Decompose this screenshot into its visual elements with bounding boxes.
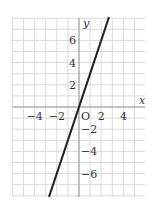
y-tick-label: 4 bbox=[69, 57, 76, 70]
x-tick-label: 4 bbox=[120, 110, 127, 123]
y-tick-label: −2 bbox=[81, 123, 97, 136]
y-axis-label: y bbox=[82, 17, 90, 30]
y-tick-label: 2 bbox=[69, 79, 76, 92]
coordinate-plane: −4−224 642−2−4−6 O x y bbox=[0, 0, 154, 214]
x-axis-label: x bbox=[139, 94, 146, 107]
x-tick-label: 2 bbox=[98, 110, 105, 123]
x-tick-label: −4 bbox=[26, 110, 42, 123]
origin-label: O bbox=[81, 110, 90, 123]
x-tick-label: −2 bbox=[49, 110, 65, 123]
y-tick-label: −6 bbox=[81, 168, 97, 181]
y-tick-label: −4 bbox=[81, 145, 97, 158]
y-tick-label: 6 bbox=[69, 34, 76, 47]
y-tick-labels: 642−2−4−6 bbox=[69, 34, 97, 180]
